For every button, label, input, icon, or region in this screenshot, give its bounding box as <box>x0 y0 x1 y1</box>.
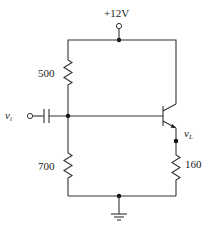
circuit-diagram: +12V 500 vi 700 vL 1 <box>0 0 212 234</box>
supply-terminal-circle <box>116 23 121 28</box>
resistor-r2: 700 <box>38 116 72 196</box>
ground-icon <box>111 196 127 220</box>
resistor-r1: 500 <box>38 56 72 116</box>
supply-terminal: +12V <box>104 7 129 42</box>
npn-transistor-q1 <box>163 100 176 152</box>
resistor-r2-symbol <box>64 116 72 196</box>
resistor-rl: 160 <box>172 152 202 196</box>
resistor-r1-symbol <box>64 56 72 116</box>
supply-label: +12V <box>104 7 129 19</box>
input-label: vi <box>5 109 12 123</box>
output-label-sub: L <box>188 133 193 141</box>
capacitor-c1 <box>44 109 163 123</box>
transistor-collector <box>163 104 176 111</box>
input-terminal-circle <box>27 113 32 118</box>
resistor-rl-symbol <box>172 152 180 196</box>
output-node-dot <box>174 139 178 143</box>
output-label: vL <box>184 127 193 141</box>
resistor-r2-label: 700 <box>38 160 55 172</box>
input-label-sub: i <box>10 115 12 123</box>
top-rail-wire <box>68 40 176 100</box>
resistor-rl-label: 160 <box>185 158 202 170</box>
resistor-r1-label: 500 <box>38 67 55 79</box>
input-terminal: vi <box>5 109 44 123</box>
